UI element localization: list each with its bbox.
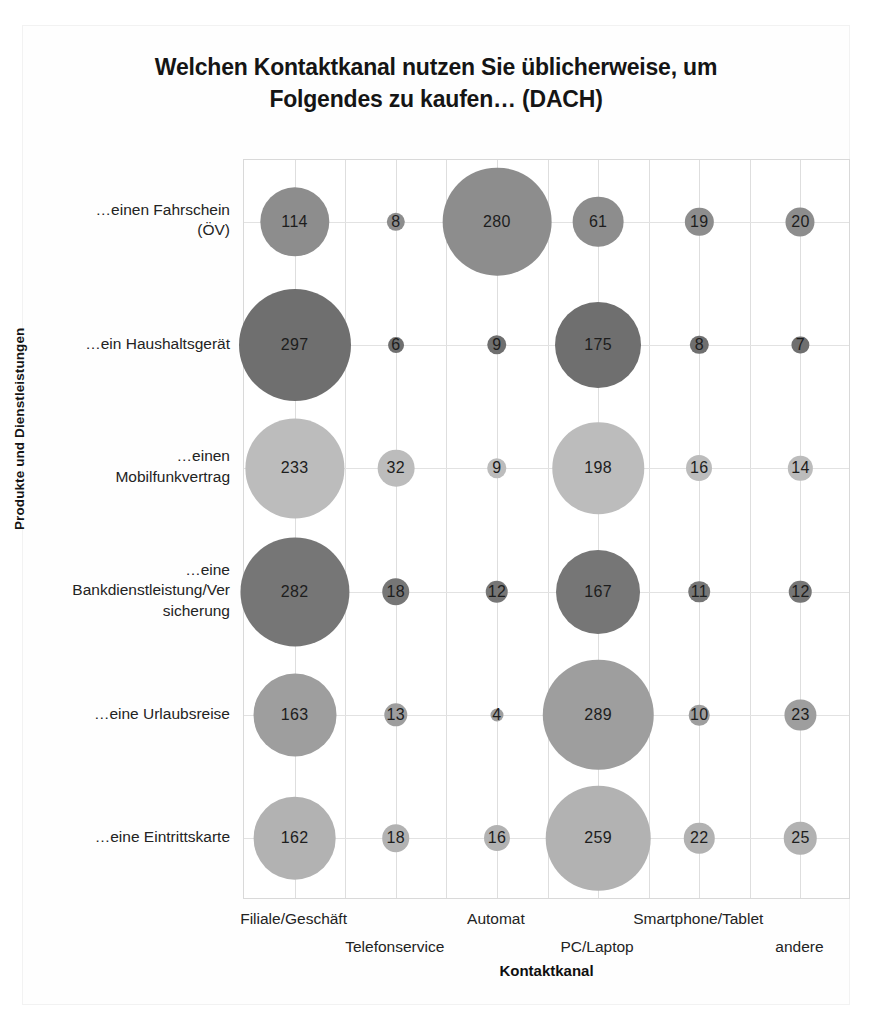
y-axis-tick-label: …einen Fahrschein(ÖV) — [15, 200, 230, 242]
bubble-value-label: 61 — [589, 213, 607, 231]
y-axis-tick-label-line: …einen — [15, 447, 230, 468]
bubble-value-label: 16 — [488, 829, 506, 847]
bubble-chart-figure: Welchen Kontaktkanal nutzen Sie üblicher… — [0, 0, 872, 1033]
y-axis-title: Produkte und Dienstleistungen — [12, 328, 27, 530]
y-axis-tick-label-line: …einen Fahrschein — [15, 200, 230, 221]
x-axis-tick-label: andere — [775, 938, 823, 956]
bubble-value-label: 13 — [387, 706, 405, 724]
vertical-gridline — [548, 160, 549, 898]
bubble-value-label: 8 — [391, 213, 400, 231]
bubble-value-label: 16 — [690, 459, 708, 477]
y-axis-tick-label-line: …eine Urlaubsreise — [15, 704, 230, 725]
x-axis-tick-label: PC/Laptop — [560, 938, 633, 956]
bubble-value-label: 22 — [690, 829, 708, 847]
bubble-value-label: 14 — [791, 459, 809, 477]
bubble-value-label: 167 — [584, 583, 612, 601]
y-axis-tick-label: …eineBankdienstleistung/Versicherung — [15, 560, 230, 622]
bubble-value-label: 289 — [584, 706, 612, 724]
bubble-value-label: 114 — [281, 213, 307, 231]
bubble-value-label: 10 — [690, 706, 708, 724]
y-axis-tick-label-line: …eine — [15, 560, 230, 581]
bubble-value-label: 233 — [281, 459, 309, 477]
bubble-value-label: 259 — [584, 829, 612, 847]
bubble-value-label: 25 — [791, 829, 809, 847]
chart-title-line-1: Welchen Kontaktkanal nutzen Sie üblicher… — [86, 52, 786, 84]
y-axis-tick-label-line: Bankdienstleistung/Ver — [15, 580, 230, 601]
bubble-value-label: 297 — [281, 336, 309, 354]
bubble-value-label: 9 — [492, 459, 501, 477]
y-axis-tick-label-line: Mobilfunkvertrag — [15, 467, 230, 488]
vertical-gridline — [800, 160, 801, 898]
vertical-gridline — [750, 160, 751, 898]
vertical-gridline — [295, 160, 296, 898]
x-axis-tick-label: Telefonservice — [345, 938, 444, 956]
bubble-value-label: 32 — [387, 459, 405, 477]
chart-title-line-2: Folgendes zu kaufen… (DACH) — [86, 84, 786, 116]
bubble-value-label: 163 — [281, 706, 309, 724]
bubble-value-label: 12 — [488, 583, 506, 601]
bubble-value-label: 4 — [492, 706, 501, 724]
bubble-value-label: 9 — [492, 336, 501, 354]
y-axis-tick-label: …ein Haushaltsgerät — [15, 334, 230, 355]
bubble-value-label: 162 — [281, 829, 309, 847]
chart-title: Welchen Kontaktkanal nutzen Sie üblicher… — [86, 52, 786, 115]
bubble-value-label: 18 — [387, 583, 405, 601]
bubble-value-label: 19 — [690, 213, 708, 231]
y-axis-tick-label-line: …ein Haushaltsgerät — [15, 334, 230, 355]
y-axis-tick-label: …einenMobilfunkvertrag — [15, 447, 230, 489]
bubble-value-label: 198 — [584, 459, 612, 477]
bubble-value-label: 8 — [695, 336, 704, 354]
y-axis-tick-label-line: (ÖV) — [15, 221, 230, 242]
bubble-value-label: 282 — [281, 583, 309, 601]
bubble-value-label: 23 — [791, 706, 809, 724]
y-axis-tick-label: …eine Eintrittskarte — [15, 827, 230, 848]
x-axis-tick-label: Automat — [467, 910, 525, 928]
plot-area: 1148280611920297691758723332919816142821… — [243, 159, 850, 899]
bubble-value-label: 6 — [391, 336, 400, 354]
x-axis-tick-label: Smartphone/Tablet — [633, 910, 763, 928]
bubble-value-label: 18 — [387, 829, 405, 847]
x-axis-title: Kontaktkanal — [243, 962, 850, 979]
x-axis-tick-label: Filiale/Geschäft — [240, 910, 347, 928]
y-axis-tick-label-line: …eine Eintrittskarte — [15, 827, 230, 848]
vertical-gridline — [699, 160, 700, 898]
bubble-value-label: 20 — [791, 213, 809, 231]
bubble-value-label: 280 — [483, 213, 511, 231]
vertical-gridline — [396, 160, 397, 898]
y-axis-tick-label-line: sicherung — [15, 601, 230, 622]
y-axis-tick-label: …eine Urlaubsreise — [15, 704, 230, 725]
bubble-value-label: 11 — [691, 583, 708, 601]
bubble-value-label: 175 — [584, 336, 612, 354]
bubble-value-label: 12 — [791, 583, 809, 601]
vertical-gridline — [345, 160, 346, 898]
bubble-value-label: 7 — [796, 336, 805, 354]
vertical-gridline — [446, 160, 447, 898]
vertical-gridline — [649, 160, 650, 898]
